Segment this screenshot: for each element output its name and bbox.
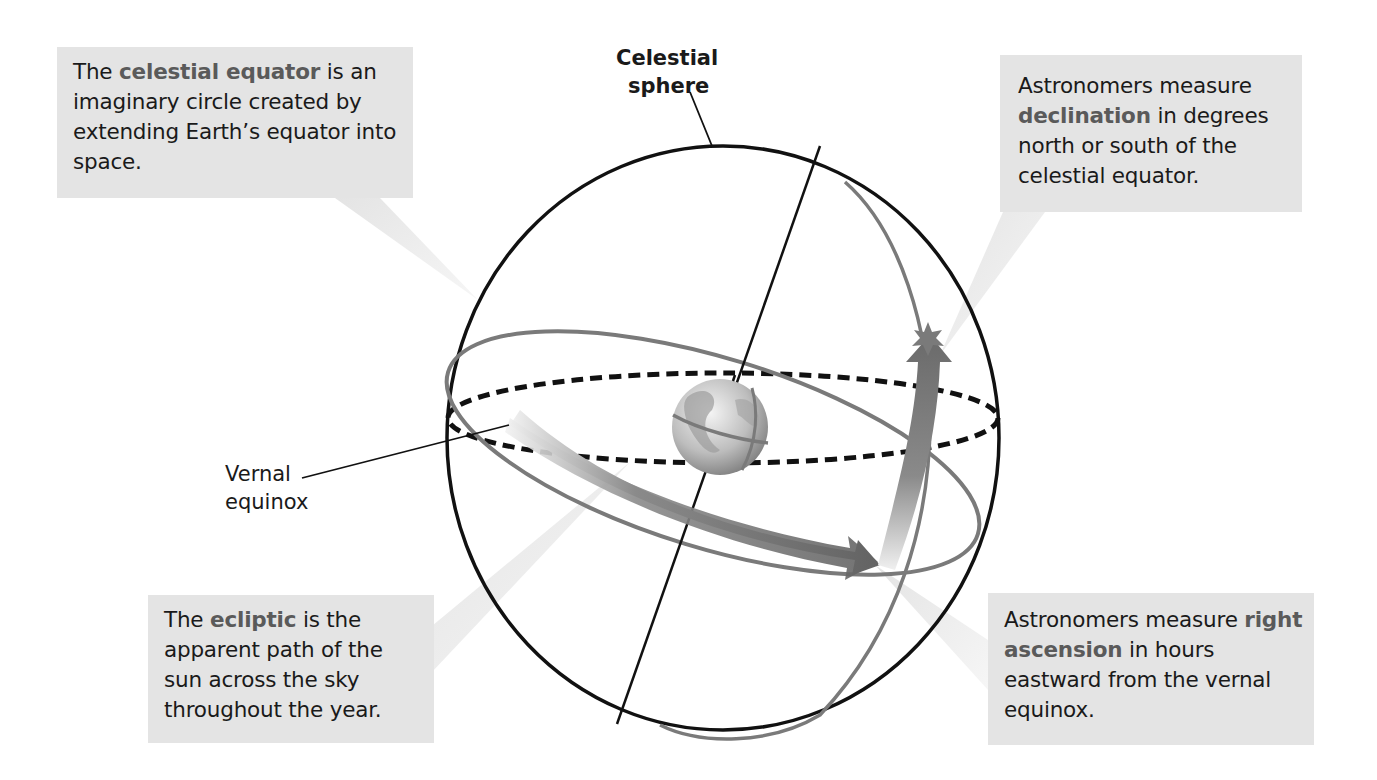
celestial-equator-pointer: [335, 198, 478, 300]
right-ascension-callout: Astronomers measure right ascension in h…: [988, 593, 1314, 745]
vernal-equinox-label: Vernal equinox: [225, 460, 308, 516]
ecliptic-pointer: [415, 462, 630, 690]
ecliptic-keyword: ecliptic: [210, 607, 296, 632]
earth-icon: [672, 379, 768, 475]
ecliptic-callout: The ecliptic is the apparent path of the…: [148, 595, 434, 743]
celestial-equator-callout: The celestial equator is an imaginary ci…: [57, 47, 413, 198]
vernal-equinox-leader: [302, 425, 509, 478]
declination-keyword: declination: [1018, 103, 1151, 128]
declination-callout: Astronomers measure declination in degre…: [1000, 55, 1302, 212]
celestial-equator-keyword: celestial equator: [119, 59, 320, 84]
celestial-sphere-leader: [690, 92, 712, 146]
celestial-sphere-label: Celestial sphere: [616, 44, 718, 100]
